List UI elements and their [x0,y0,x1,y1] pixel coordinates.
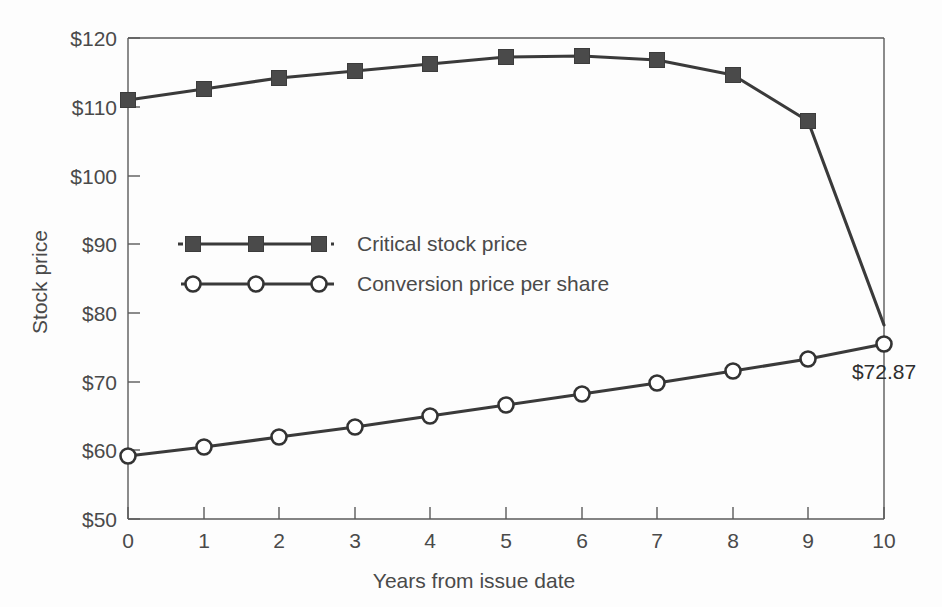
x-tick-label-3: 3 [349,529,361,552]
line-chart: $120 $110 $100 $90 $80 $70 $60 $50 0 [0,0,942,607]
x-tick-label-4: 4 [424,529,436,552]
marker-conversion-10 [877,337,892,352]
x-tick-label-9: 9 [802,529,814,552]
x-axis-title: Years from issue date [373,569,575,592]
y-tick-label-120: $120 [70,27,117,50]
series-conversion-price [121,337,892,464]
legend-marker-conversion-3 [312,277,327,292]
marker-critical-4 [423,57,438,72]
x-tick-label-6: 6 [576,529,588,552]
y-tick-label-50: $50 [82,508,117,531]
marker-conversion-7 [650,376,665,391]
marker-critical-1 [197,82,212,97]
legend-marker-critical-3 [312,237,327,252]
y-tick-label-90: $90 [82,233,117,256]
chart-figure: $120 $110 $100 $90 $80 $70 $60 $50 0 [0,0,942,607]
legend-marker-conversion-2 [249,277,264,292]
y-tick-label-80: $80 [82,302,117,325]
marker-conversion-4 [423,409,438,424]
marker-conversion-9 [801,352,816,367]
marker-critical-9 [801,114,816,129]
x-tick-label-8: 8 [727,529,739,552]
legend-entry-conversion-price[interactable]: Conversion price per share [181,272,609,295]
legend-label-conversion-price: Conversion price per share [357,272,609,295]
x-tick-marks [128,507,884,519]
legend-marker-critical-2 [249,237,264,252]
marker-conversion-3 [348,420,363,435]
x-tick-label-2: 2 [273,529,285,552]
x-tick-label-0: 0 [122,529,134,552]
y-tick-labels: $120 $110 $100 $90 $80 $70 $60 $50 [70,27,117,531]
y-tick-label-60: $60 [82,439,117,462]
marker-conversion-2 [272,430,287,445]
marker-critical-6 [575,49,590,64]
marker-critical-5 [499,50,514,65]
legend-marker-critical-1 [186,237,201,252]
marker-critical-8 [726,68,741,83]
legend-entry-critical-stock-price[interactable]: Critical stock price [178,232,527,255]
marker-critical-0 [121,93,136,108]
y-tick-label-100: $100 [70,165,117,188]
marker-conversion-8 [726,364,741,379]
x-tick-labels: 0 1 2 3 4 5 6 7 8 9 10 [122,529,896,552]
x-tick-label-10: 10 [872,529,895,552]
marker-critical-7 [650,53,665,68]
x-tick-label-5: 5 [500,529,512,552]
marker-conversion-0 [121,449,136,464]
marker-conversion-5 [499,398,514,413]
legend-label-critical-stock-price: Critical stock price [357,232,527,255]
y-tick-label-110: $110 [72,96,117,119]
legend-marker-conversion-1 [186,277,201,292]
marker-conversion-6 [575,387,590,402]
y-tick-marks [128,38,140,519]
marker-critical-2 [272,71,287,86]
x-tick-label-7: 7 [651,529,663,552]
marker-conversion-1 [197,440,212,455]
y-axis-title: Stock price [28,230,51,334]
y-tick-label-70: $70 [82,371,117,394]
marker-critical-3 [348,64,363,79]
x-tick-label-1: 1 [198,529,210,552]
annotation-final-value: $72.87 [852,360,916,383]
chart-legend: Critical stock price Conversion price pe… [178,232,609,295]
